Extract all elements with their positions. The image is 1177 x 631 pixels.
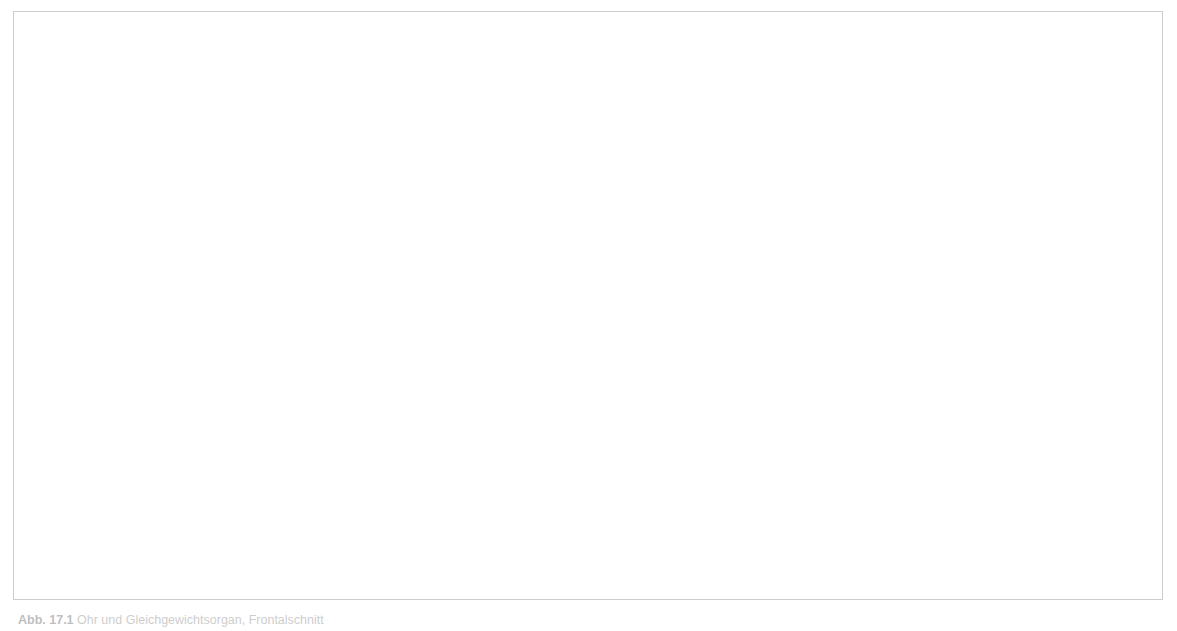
figure-page: CanalissemicircularisposteriorCanalissem… [0,0,1177,631]
caption-text: Ohr und Gleichgewichtsorgan, Frontalschn… [77,613,324,627]
figure-caption: Abb. 17.1 Ohr und Gleichgewichtsorgan, F… [18,613,324,631]
caption-number: Abb. 17.1 [18,613,74,627]
figure-border [13,11,1163,600]
